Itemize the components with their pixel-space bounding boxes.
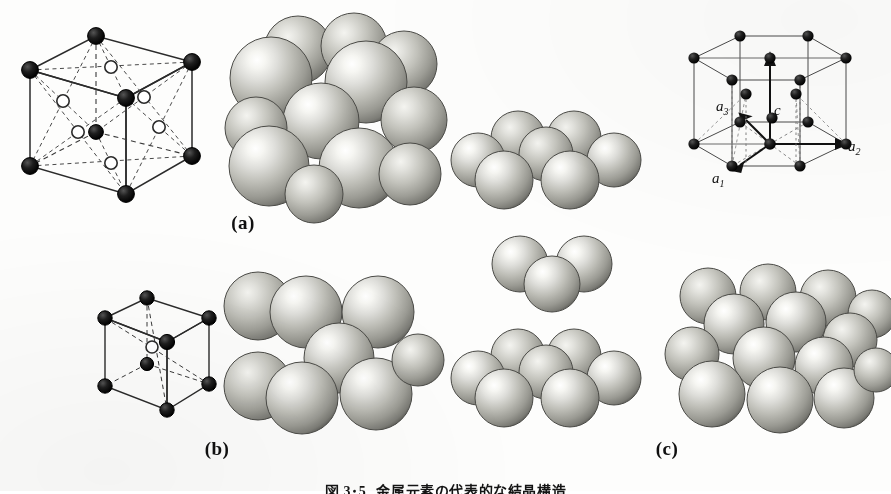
close-packed-layer-top-svg	[452, 112, 662, 222]
axis-label-c-text: c	[774, 102, 781, 118]
hcp-c-axis	[766, 54, 775, 144]
bcc-body-centre-atom	[146, 341, 158, 353]
hcp-unit-cell-diagram: c a2 a1 a3	[650, 20, 885, 205]
axis-label-a1: a1	[712, 170, 725, 189]
hcp-a3-axis	[740, 114, 770, 144]
fcc-face-centre-atoms	[57, 61, 165, 169]
bcc-sphere-model-svg	[236, 290, 431, 440]
close-packed-layer-bottom	[452, 330, 662, 440]
axis-label-a3-sub: 3	[724, 106, 729, 117]
figure-caption-number: 図 3･5	[325, 484, 367, 494]
panel-label-c-text: (c)	[656, 438, 679, 459]
panel-label-c: (c)	[622, 438, 712, 460]
axis-label-a1-sub: 1	[720, 178, 725, 189]
close-packed-layer-bottom-svg	[452, 330, 662, 440]
bcc-unit-cell-svg	[95, 288, 245, 433]
axis-label-a3: a3	[716, 98, 729, 117]
close-packed-layer-top	[452, 112, 662, 222]
figure-caption: 図 3･5金属元素の代表的な結晶構造	[0, 480, 891, 494]
close-packed-layer-middle	[484, 232, 634, 318]
fcc-unit-cell-svg	[8, 14, 223, 214]
hcp-a1-axis	[732, 144, 770, 172]
panel-label-a: (a)	[198, 212, 288, 234]
axis-label-c: c	[774, 102, 781, 119]
panel-label-b: (b)	[172, 438, 262, 460]
fcc-corner-atoms	[22, 28, 201, 203]
axis-label-a3-text: a	[716, 98, 724, 114]
bcc-unit-cell-diagram	[95, 288, 245, 433]
panel-label-a-text: (a)	[231, 212, 255, 233]
fcc-sphere-model-svg	[226, 16, 436, 211]
hcp-a2-axis	[770, 140, 847, 149]
axis-label-a2: a2	[848, 138, 861, 157]
close-packed-layer-middle-svg	[484, 232, 634, 318]
hcp-unit-cell-svg	[650, 20, 885, 205]
figure-caption-text: 金属元素の代表的な結晶構造	[376, 484, 566, 494]
axis-label-a1-text: a	[712, 170, 720, 186]
axis-label-a2-sub: 2	[856, 146, 861, 157]
bcc-sphere-model	[236, 290, 431, 440]
axis-label-a2-text: a	[848, 138, 856, 154]
hcp-sphere-model	[672, 288, 887, 443]
hcp-sphere-model-svg	[672, 288, 887, 443]
fcc-sphere-model	[226, 16, 436, 211]
panel-label-b-text: (b)	[205, 438, 230, 459]
fcc-unit-cell-diagram	[8, 14, 223, 214]
